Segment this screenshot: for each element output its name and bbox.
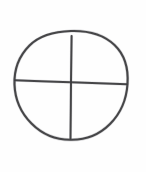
sketch-canvas: A hand-drawn circle crossed by vertical …: [0, 0, 146, 172]
drawing-surface: [0, 0, 146, 172]
vertical-diameter: [71, 36, 72, 139]
canvas-background: [0, 0, 146, 172]
